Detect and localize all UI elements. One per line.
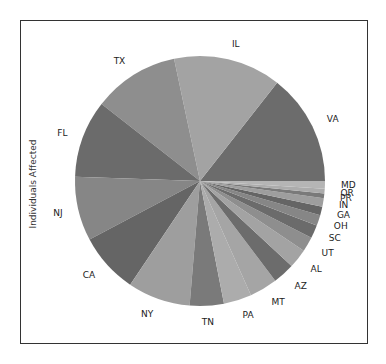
y-axis-label: Individuals Affected [28, 139, 38, 228]
slice-label-pa: PA [243, 310, 255, 320]
slice-label-sc: SC [329, 233, 341, 243]
slice-label-oh: OH [334, 221, 348, 231]
slice-label-tn: TN [201, 317, 214, 327]
slice-label-nj: NJ [53, 208, 62, 218]
slice-label-al: AL [311, 264, 322, 274]
slice-label-va: VA [327, 114, 340, 124]
slice-label-ut: UT [322, 248, 335, 258]
slice-label-az: AZ [295, 281, 307, 291]
slice-label-tx: TX [113, 56, 126, 66]
slice-label-mt: MT [272, 297, 286, 307]
slice-label-il: IL [232, 39, 240, 49]
pie-chart: VAILTXFLNJCANYTNPAMTAZALUTSCOHGAINPRORMD [0, 0, 386, 364]
slice-label-md: MD [341, 180, 356, 190]
chart-figure: VAILTXFLNJCANYTNPAMTAZALUTSCOHGAINPRORMD… [0, 0, 386, 364]
slice-label-ca: CA [83, 270, 96, 280]
slice-label-ga: GA [337, 210, 351, 220]
slice-label-ny: NY [141, 309, 154, 319]
slice-label-fl: FL [57, 128, 67, 138]
